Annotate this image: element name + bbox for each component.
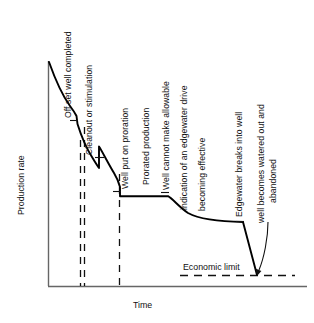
annotation-watered-out-line1: well becomes watered out and [256, 104, 266, 223]
annotation-watered-out-line2: abandoned [268, 159, 278, 203]
leader-arrow-abandoned [259, 222, 268, 270]
annotation-edgewater-breaks: Edgewater breaks into well [234, 112, 244, 217]
annotation-proration: Well put on proration [120, 108, 130, 189]
economic-limit-label: Economic limit [183, 262, 240, 272]
annotation-becoming-effective: becoming effective [197, 138, 207, 211]
y-axis-title: Production rate [16, 155, 26, 215]
annotation-cannot-make-allowable: Well cannot make allowable [161, 81, 171, 190]
annotation-edgewater-drive: indication of an edgewater drive [179, 85, 189, 210]
annotation-prorated-production: Prorated production [141, 108, 151, 185]
decline-curve-chart [0, 0, 314, 323]
annotation-cleanout: Cleanout or stimulation [84, 65, 94, 155]
annotation-offset-well: Off set well completed [63, 31, 73, 118]
production-decline-figure: Off set well completed Cleanout or stimu… [0, 0, 314, 323]
x-axis-title: Time [133, 300, 152, 310]
